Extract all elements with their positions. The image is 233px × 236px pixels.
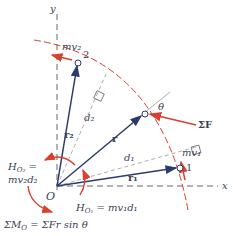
r-label: r [112,133,118,144]
d2-label: d₂ [84,112,94,123]
h-o1-equation: HO₁ = mv₁d₁ [75,202,138,215]
h-o2-equation-line2: mv₂d₂ [8,174,38,185]
particle-1 [177,165,183,171]
force-label: ΣF [198,119,212,130]
d1-label: d₁ [124,152,134,163]
moment-sum-equation: ΣMO = ΣFr sin θ [3,219,88,232]
h-o2-equation-line1: HO₂ = [7,161,37,174]
momentum-v2-arrow [52,55,72,60]
momentum-v1-label: mv₁ [182,147,201,158]
guide-line-theta [144,92,170,113]
force-arrow [150,114,196,125]
point-1-label: 1 [186,162,192,173]
right-angle-d2 [94,91,105,102]
point-2-label: 2 [83,49,89,60]
angular-momentum-diagram: y x O mv₂ 2 r₂ d₂ r θ ΣF mv₁ 1 r₁ d₁ HO₂… [0,0,233,236]
particle-2 [75,60,81,66]
origin-label: O [46,190,55,203]
x-axis-label: x [222,180,228,191]
vector-r2 [57,66,77,186]
momentum-v2-label: mv₂ [62,41,81,52]
y-axis-label: y [49,3,56,14]
r2-label: r₂ [64,129,74,140]
r1-label: r₁ [128,172,138,183]
theta-label: θ [158,101,164,112]
particle-p [142,111,148,117]
